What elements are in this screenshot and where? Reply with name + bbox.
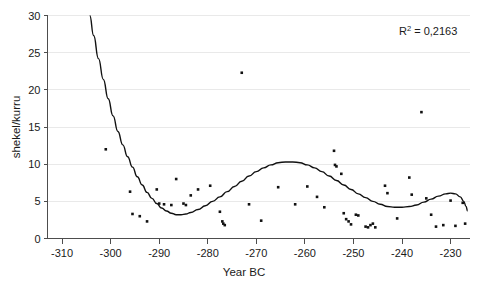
data-point: [138, 215, 141, 218]
chart-background: [0, 0, 488, 287]
data-point: [158, 202, 161, 205]
data-point: [442, 224, 445, 227]
data-point: [182, 202, 185, 205]
data-point: [410, 193, 413, 196]
data-point: [420, 111, 423, 114]
y-tick-label-0: 0: [34, 233, 40, 245]
x-tick-label--280: -280: [197, 247, 219, 259]
data-point: [386, 192, 389, 195]
data-point: [369, 224, 372, 227]
x-tick-label--260: -260: [294, 247, 316, 259]
data-point: [396, 217, 399, 220]
data-point: [425, 197, 428, 200]
data-point: [146, 220, 149, 223]
data-point: [197, 188, 200, 191]
data-point: [408, 176, 411, 179]
x-tick-label--230: -230: [440, 247, 462, 259]
data-point: [248, 203, 251, 206]
data-point: [170, 204, 173, 207]
data-point: [367, 226, 370, 229]
data-point: [435, 225, 438, 228]
data-point: [223, 224, 226, 227]
data-point: [430, 213, 433, 216]
x-tick-label--300: -300: [100, 247, 122, 259]
x-tick-label--250: -250: [342, 247, 364, 259]
data-point: [131, 213, 134, 216]
y-tick-label-5: 5: [34, 195, 40, 207]
data-point: [342, 212, 345, 215]
data-point: [350, 223, 353, 226]
r-squared-prefix: R: [399, 25, 407, 37]
y-tick-label-25: 25: [28, 47, 40, 59]
data-point: [454, 225, 457, 228]
data-point: [155, 188, 158, 191]
data-point: [384, 184, 387, 187]
data-point: [306, 185, 309, 188]
data-point: [104, 148, 107, 151]
data-point: [316, 196, 319, 199]
data-point: [374, 226, 377, 229]
data-point: [372, 222, 375, 225]
data-point: [240, 71, 243, 74]
chart-container: 051015202530 -310-300-290-280-270-260-25…: [0, 0, 488, 287]
data-point: [163, 203, 166, 206]
data-point: [189, 194, 192, 197]
data-point: [335, 165, 338, 168]
scatter-plot: 051015202530 -310-300-290-280-270-260-25…: [0, 0, 488, 287]
x-tick-label--310: -310: [51, 247, 73, 259]
data-point: [357, 214, 360, 217]
data-point: [347, 220, 350, 223]
data-point: [219, 210, 222, 213]
data-point: [209, 184, 212, 187]
data-point: [340, 173, 343, 176]
data-point: [221, 220, 224, 223]
y-tick-label-10: 10: [28, 158, 40, 170]
data-point: [129, 190, 132, 193]
data-point: [260, 219, 263, 222]
x-tick-label--240: -240: [391, 247, 413, 259]
x-tick-label--290: -290: [148, 247, 170, 259]
data-point: [345, 218, 348, 221]
data-point: [461, 202, 464, 205]
data-point: [364, 225, 367, 228]
data-point: [185, 204, 188, 207]
data-point: [355, 213, 358, 216]
y-tick-label-30: 30: [28, 10, 40, 22]
data-point: [449, 199, 452, 202]
y-tick-label-20: 20: [28, 84, 40, 96]
y-axis-title: shekel/kurru: [10, 96, 22, 159]
x-tick-label--270: -270: [245, 247, 267, 259]
data-point: [277, 186, 280, 189]
r-squared-value: = 0,2163: [411, 25, 457, 37]
data-point: [175, 178, 178, 181]
data-point: [464, 222, 467, 225]
data-point: [294, 203, 297, 206]
data-point: [333, 149, 336, 152]
y-tick-label-15: 15: [28, 121, 40, 133]
x-axis-title: Year BC: [223, 266, 265, 278]
data-point: [323, 206, 326, 209]
